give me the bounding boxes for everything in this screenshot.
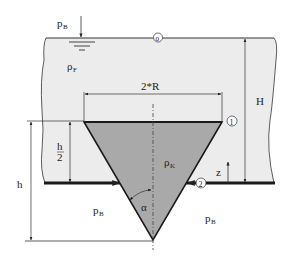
pressure-bottom-left-label: p B	[93, 204, 104, 218]
svg-text:0: 0	[156, 35, 160, 43]
svg-text:B: B	[99, 210, 104, 218]
point-2-marker: 2	[196, 178, 206, 189]
point-0-marker: 0	[154, 33, 163, 43]
half-height-denominator: 2	[57, 151, 63, 163]
svg-text:B: B	[63, 23, 68, 31]
pressure-top-label: p B	[57, 17, 68, 31]
z-axis-label: z	[216, 166, 221, 178]
svg-text:K: K	[170, 162, 175, 170]
point-1-marker: 1	[227, 116, 237, 127]
angle-label: α	[141, 201, 147, 213]
pressure-bottom-right-label: p B	[205, 212, 216, 226]
width-label: 2*R	[141, 80, 160, 92]
svg-text:F: F	[73, 66, 77, 74]
svg-text:B: B	[211, 218, 216, 226]
cone-height-label: h	[17, 178, 23, 190]
svg-text:2: 2	[199, 180, 203, 189]
height-total-label: H	[256, 95, 264, 107]
cone-in-tank-diagram: 2*R H h h 2 z α 0 1 2 p B ρ F ρ K	[0, 0, 293, 261]
svg-text:1: 1	[230, 118, 234, 127]
